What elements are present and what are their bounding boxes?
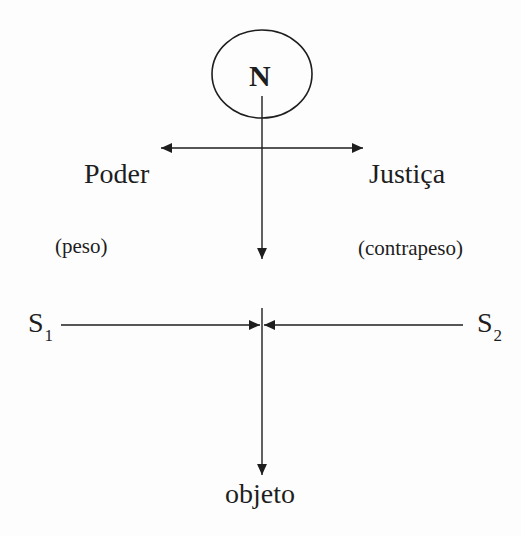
s1-letter: S bbox=[28, 307, 44, 338]
s1-label: S1 bbox=[28, 309, 53, 337]
poder-label: Poder bbox=[84, 160, 149, 188]
s1-subscript: 1 bbox=[45, 326, 54, 345]
peso-label: (peso) bbox=[55, 236, 107, 257]
justica-label: Justiça bbox=[369, 160, 445, 188]
s2-subscript: 2 bbox=[494, 326, 503, 345]
diagram-canvas: N Poder Justiça (peso) (contrapeso) S1 S… bbox=[0, 0, 521, 536]
s2-letter: S bbox=[477, 307, 493, 338]
contrapeso-label: (contrapeso) bbox=[358, 238, 463, 259]
objeto-label: objeto bbox=[225, 480, 295, 508]
s2-label: S2 bbox=[477, 309, 502, 337]
n-node-label: N bbox=[249, 61, 271, 91]
